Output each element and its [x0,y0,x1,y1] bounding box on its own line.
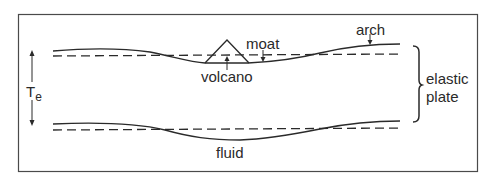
te-arrowhead-up-icon [30,50,35,56]
elastic-label: elastic [426,70,469,87]
elastic-plate-diagram: arch moat volcano Te elastic plate fluid [0,0,492,178]
volcano-label: volcano [201,68,253,85]
elastic-plate-bracket [413,46,422,122]
fluid-label: fluid [216,144,244,161]
bottom-plate-surface [53,121,400,140]
plate-label: plate [426,88,459,105]
te-arrowhead-down-icon [30,120,35,126]
te-label: Te [26,83,42,104]
arch-arrowhead-icon [368,40,373,45]
moat-label: moat [246,35,280,52]
moat-arrowhead-icon [261,57,266,62]
bottom-reference-line [53,128,403,130]
arch-label: arch [356,21,385,38]
top-reference-line [53,54,403,56]
volcano-arrowhead-icon [225,56,230,61]
